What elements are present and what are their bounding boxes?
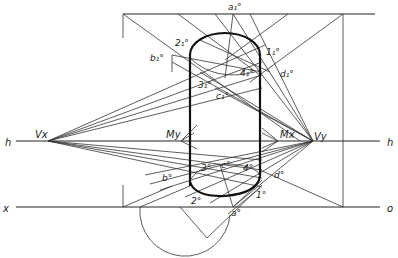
label-vy: Vy: [314, 131, 328, 142]
label-b1: b₁°: [150, 53, 164, 63]
label-vx: Vx: [35, 129, 48, 140]
perspective-drawing: h h x o Vx Vy My Mx a₁° b₁° c₁° d₁° 1₁° …: [0, 0, 398, 258]
label-3: 3°: [201, 163, 211, 173]
label-4: 4°: [243, 163, 253, 173]
label-2: 2°: [191, 196, 201, 206]
label-a: a°: [231, 208, 241, 218]
label-21: 2₁°: [175, 38, 189, 48]
label-h-left: h: [5, 137, 11, 148]
label-o: o: [387, 203, 393, 214]
label-31: 3₁°: [198, 80, 212, 90]
labels: h h x o Vx Vy My Mx a₁° b₁° c₁° d₁° 1₁° …: [2, 2, 393, 218]
label-11: 1₁°: [266, 47, 280, 57]
label-a1: a₁°: [228, 2, 242, 12]
label-x: x: [2, 203, 9, 214]
label-b: b°: [162, 173, 172, 183]
measuring-rays: [181, 125, 278, 152]
label-my: My: [166, 129, 182, 140]
label-d: d°: [274, 170, 284, 180]
label-mx: Mx: [280, 129, 295, 140]
label-1: 1°: [256, 190, 266, 200]
label-c1: c₁°: [216, 91, 229, 101]
rabatment-arc: [140, 207, 230, 256]
label-h-right: h: [387, 137, 393, 148]
label-41: 4₁°: [240, 68, 254, 78]
label-d1: d₁°: [280, 69, 294, 79]
label-c: c°: [221, 160, 230, 170]
